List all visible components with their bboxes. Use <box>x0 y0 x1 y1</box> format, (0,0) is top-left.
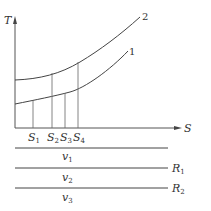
r1-label: R1 <box>171 162 185 176</box>
s1-label: S1 <box>28 131 40 145</box>
curve-2-label: 2 <box>142 11 148 22</box>
s4-label: S4 <box>73 131 86 145</box>
t-axis-label: T <box>4 14 13 27</box>
r2-label: R2 <box>171 182 185 196</box>
v1-label: v1 <box>62 150 73 164</box>
v2-label: v2 <box>62 171 73 185</box>
s-axis-arrow-icon <box>174 126 182 130</box>
curve-1 <box>15 51 128 104</box>
t-s-diagram: T S 2 1 S1 S2 S3 S4 v1 v2 v3 R1 R2 <box>0 0 211 211</box>
v3-label: v3 <box>62 191 73 205</box>
t-axis-arrow-icon <box>13 16 17 24</box>
curve-1-label: 1 <box>129 46 135 57</box>
s-axis-label: S <box>184 122 192 135</box>
curve-2 <box>15 17 140 80</box>
s2-label: S2 <box>47 131 59 145</box>
s3-label: S3 <box>60 131 72 145</box>
